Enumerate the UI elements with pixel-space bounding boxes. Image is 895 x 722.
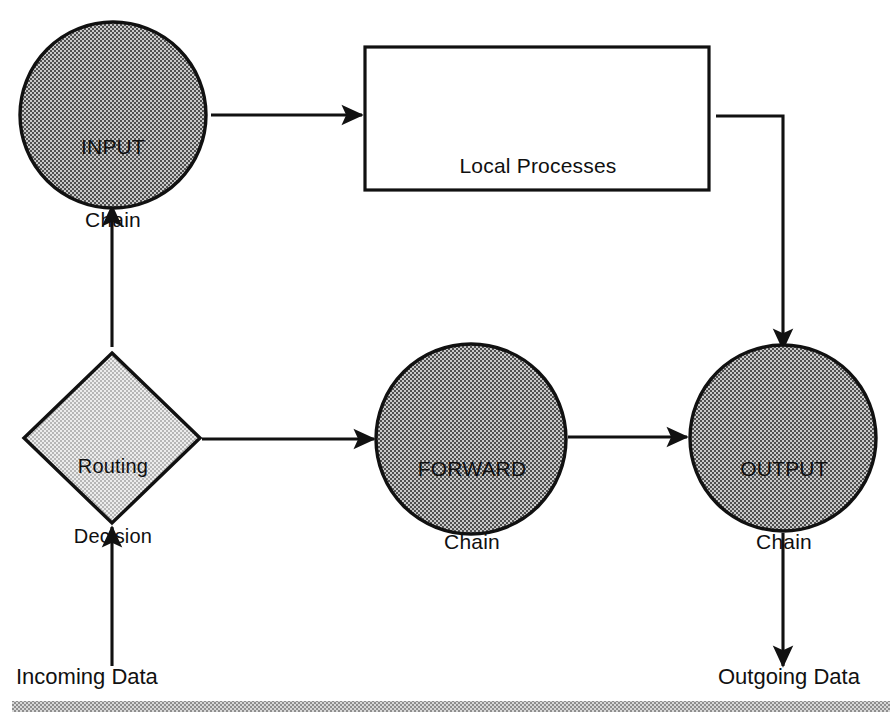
flow-diagram	[0, 0, 895, 722]
label-outgoing-data: Outgoing Data	[718, 664, 860, 690]
node-output-chain[interactable]	[690, 345, 876, 531]
footer-rule	[12, 701, 890, 712]
node-forward-chain[interactable]	[376, 344, 566, 534]
diagram-canvas: INPUT Chain Local Processes Routing Deci…	[0, 0, 895, 722]
label-incoming-data: Incoming Data	[16, 664, 158, 690]
node-routing-decision[interactable]	[24, 353, 200, 523]
node-local-processes[interactable]	[365, 47, 709, 190]
node-input-chain[interactable]	[20, 22, 206, 208]
connector-local-processes-to-output	[716, 116, 783, 349]
